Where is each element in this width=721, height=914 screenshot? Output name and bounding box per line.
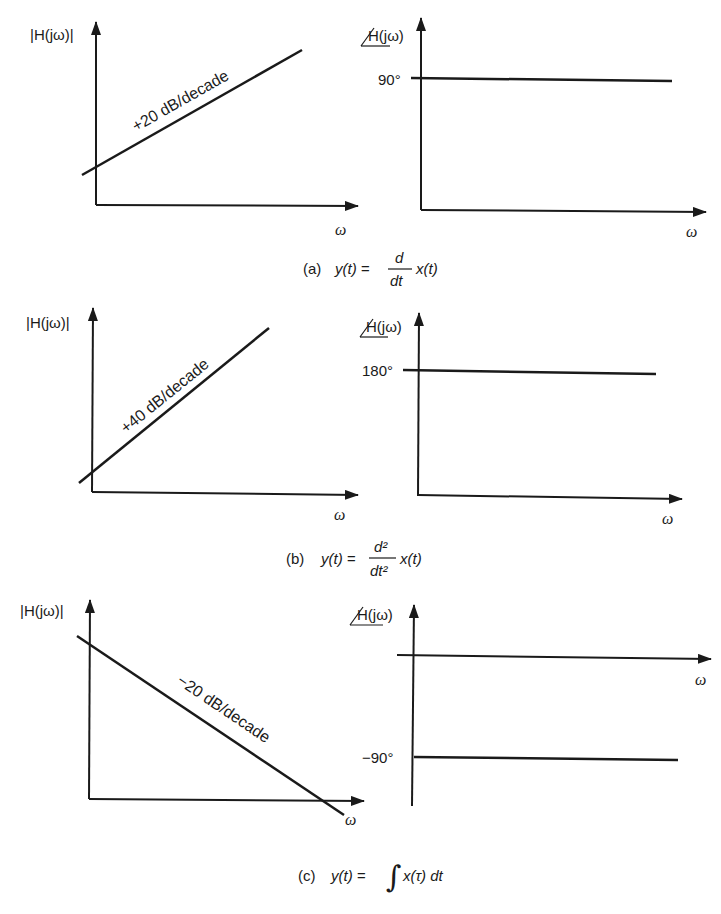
caption-rhs: x(τ) dt — [402, 867, 444, 884]
caption-numerator: d — [395, 249, 404, 266]
omega-label: ω — [662, 510, 673, 527]
panel-c-magnitude: |H(jω)| −20 dB/decade ω — [20, 600, 364, 828]
x-axis — [421, 210, 706, 212]
slope-label: +40 dB/decade — [117, 355, 212, 436]
caption-lhs: y(t) = — [320, 550, 356, 567]
x-axis — [96, 205, 358, 206]
phase-line — [403, 370, 656, 374]
omega-label: ω — [334, 506, 345, 523]
magnitude-line — [79, 328, 269, 483]
panel-a-phase: H(jω) 90° ω — [361, 18, 706, 240]
caption-rhs: x(t) — [399, 550, 422, 567]
y-axis — [92, 308, 93, 492]
phase-line — [414, 757, 678, 760]
phase-axis-label: H(jω) — [357, 606, 393, 623]
caption-lhs: y(t) = — [334, 260, 370, 277]
caption-a: (a) y(t) = d dt x(t) — [303, 249, 438, 289]
magnitude-axis-label: |H(jω)| — [26, 314, 70, 331]
caption-b: (b) y(t) = d² dt² x(t) — [286, 538, 422, 579]
omega-label: ω — [345, 811, 356, 828]
panel-c-phase: H(jω) −90° ω — [350, 605, 711, 806]
y-axis — [89, 600, 90, 799]
integral-sign: ∫ — [386, 859, 402, 894]
x-axis — [418, 495, 682, 499]
caption-numerator: d² — [374, 538, 388, 555]
omega-label: ω — [695, 671, 706, 688]
slope-label: +20 dB/decade — [129, 67, 232, 135]
caption-tag: (a) — [303, 260, 321, 277]
phase-axis-label: H(jω) — [366, 318, 402, 335]
omega-label: ω — [335, 221, 346, 238]
panel-b-phase: H(jω) 180° ω — [360, 313, 682, 527]
caption-lhs: y(t) = — [330, 867, 366, 884]
caption-denominator: dt² — [370, 562, 389, 579]
caption-denominator: dt — [390, 272, 403, 289]
x-axis — [397, 655, 711, 659]
panel-a-magnitude: |H(jω)| +20 dB/decade ω — [30, 22, 358, 238]
y-axis — [412, 605, 414, 806]
phase-value-label: 180° — [362, 362, 393, 379]
magnitude-line — [77, 636, 344, 815]
caption-rhs: x(t) — [415, 260, 438, 277]
phase-axis-label: H(jω) — [368, 27, 404, 44]
omega-label: ω — [686, 223, 697, 240]
bode-diagram: |H(jω)| +20 dB/decade ω H(jω) 90° ω (a) … — [0, 0, 721, 914]
caption-tag: (c) — [298, 867, 316, 884]
phase-value-label: 90° — [378, 71, 401, 88]
caption-tag: (b) — [286, 550, 304, 567]
phase-value-label: −90° — [362, 749, 393, 766]
panel-b-magnitude: |H(jω)| +40 dB/decade ω — [26, 308, 358, 523]
caption-c: (c) y(t) = ∫ x(τ) dt — [298, 859, 444, 894]
magnitude-line — [82, 50, 302, 175]
magnitude-axis-label: |H(jω)| — [30, 26, 74, 43]
y-axis — [418, 313, 419, 496]
phase-line — [411, 78, 672, 81]
magnitude-axis-label: |H(jω)| — [20, 602, 64, 619]
x-axis — [92, 492, 358, 495]
